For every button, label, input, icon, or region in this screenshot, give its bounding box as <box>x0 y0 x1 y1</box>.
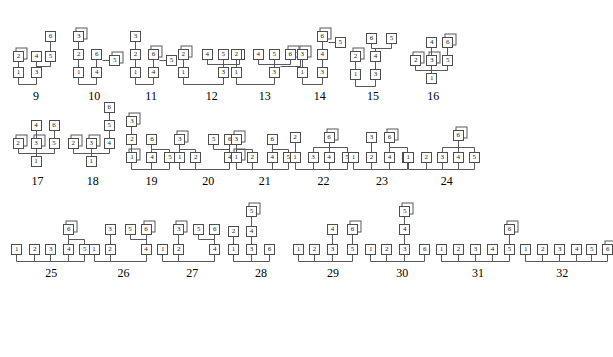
node-box: 4 <box>370 51 381 62</box>
poset-diagram-1: 6524131 <box>5 0 63 2</box>
node-box: 6 <box>91 49 102 60</box>
poset-diagram-11: 32651411 <box>122 29 180 105</box>
node-box: 6 <box>442 37 453 48</box>
node-box: 1 <box>403 152 414 163</box>
node-box: 4 <box>327 224 338 235</box>
node-box: 3 <box>31 67 42 78</box>
node-box: 2 <box>290 132 301 143</box>
node-box: 2 <box>247 152 258 163</box>
node-box: 4 <box>384 152 395 163</box>
poset-diagram-4: 3625144 <box>177 0 233 2</box>
node-box: 6 <box>148 49 159 60</box>
diagram-caption: 18 <box>64 174 122 188</box>
poset-diagram-9: 6245139 <box>7 29 65 105</box>
node-box: 1 <box>290 152 301 163</box>
node-box: 3 <box>327 244 338 255</box>
diagram-caption: 11 <box>122 89 180 103</box>
diagram-caption: 10 <box>65 89 123 103</box>
node-box: 2 <box>173 244 184 255</box>
node-box: 6 <box>267 134 278 145</box>
node-box: 6 <box>504 224 515 235</box>
node-box: 5 <box>399 206 410 217</box>
diagram-caption: 9 <box>7 89 65 103</box>
diagram-canvas: 612345 <box>430 212 526 264</box>
node-box: 5 <box>45 51 56 62</box>
node-box: 4 <box>253 49 264 60</box>
node-box: 1 <box>231 67 242 78</box>
poset-diagram-14: 65341314 <box>291 29 349 105</box>
node-box: 3 <box>366 132 377 143</box>
node-box: 6 <box>146 134 157 145</box>
node-box: 3 <box>218 67 229 78</box>
node-box: 1 <box>293 244 304 255</box>
node-box: 3 <box>73 31 84 42</box>
poset-diagram-5: 2461355 <box>227 0 291 2</box>
node-box: 3 <box>317 67 328 78</box>
node-box: 1 <box>297 67 308 78</box>
node-box: 6 <box>347 224 358 235</box>
node-box: 3 <box>31 138 42 149</box>
diagram-caption: 14 <box>291 89 349 103</box>
poset-diagram-18: 65234118 <box>64 102 122 190</box>
node-box: 3 <box>105 224 116 235</box>
node-box: 1 <box>11 244 22 255</box>
node-box: 2 <box>453 244 464 255</box>
node-box: 1 <box>178 67 189 78</box>
diagram-canvas: 462351 <box>404 29 462 87</box>
node-box: 6 <box>141 224 152 235</box>
node-box: 6 <box>419 244 430 255</box>
node-box: 1 <box>89 244 100 255</box>
node-box: 6 <box>366 33 377 44</box>
diagram-canvas: 462351 <box>9 114 67 172</box>
node-box: 3 <box>297 49 308 60</box>
diagram-edges <box>430 212 526 264</box>
diagram-canvas: 653413 <box>291 29 349 87</box>
node-box: 1 <box>130 67 141 78</box>
poset-diagram-6: 2461356 <box>287 0 351 2</box>
node-box: 3 <box>86 138 97 149</box>
node-box: 6 <box>324 132 335 143</box>
node-box: 3 <box>470 244 481 255</box>
node-box: 4 <box>317 49 328 60</box>
poset-diagram-10: 32651410 <box>65 29 123 105</box>
node-box: 1 <box>86 156 97 167</box>
node-box: 3 <box>45 244 56 255</box>
diagram-canvas: 326514 <box>65 29 123 87</box>
node-box: 1 <box>73 67 84 78</box>
node-box: 4 <box>146 152 157 163</box>
node-box: 3 <box>174 134 185 145</box>
node-box: 2 <box>421 152 432 163</box>
node-box: 1 <box>126 152 137 163</box>
node-box: 5 <box>104 120 115 131</box>
poset-diagram-31: 61234531 <box>430 212 526 282</box>
node-box: 3 <box>126 116 137 127</box>
node-box: 2 <box>537 244 548 255</box>
diagram-canvas: 652341 <box>64 102 122 172</box>
node-box: 5 <box>504 244 515 255</box>
node-box: 5 <box>442 55 453 66</box>
node-box: 4 <box>426 37 437 48</box>
diagram-canvas: 123456 <box>514 212 610 264</box>
node-box: 6 <box>63 224 74 235</box>
node-box: 3 <box>308 152 319 163</box>
node-box: 5 <box>109 55 120 66</box>
diagram-caption: 16 <box>404 89 462 103</box>
node-box: 5 <box>269 49 280 60</box>
diagram-canvas: 652413 <box>344 29 402 87</box>
node-box: 5 <box>49 138 60 149</box>
poset-diagram-17: 46235117 <box>9 114 67 190</box>
node-box: 5 <box>166 55 177 66</box>
node-box: 1 <box>365 244 376 255</box>
node-box: 6 <box>209 224 220 235</box>
diagram-caption: 17 <box>9 174 67 188</box>
poset-diagram-7: 6245137 <box>347 0 411 2</box>
node-box: 2 <box>73 49 84 60</box>
poset-diagram-8: 6245138 <box>406 0 470 2</box>
node-box: 2 <box>178 49 189 60</box>
diagram-canvas: 612345 <box>401 114 493 172</box>
node-box: 2 <box>126 134 137 145</box>
poset-diagram-24: 61234524 <box>401 114 493 190</box>
node-box: 2 <box>13 51 24 62</box>
node-box: 3 <box>130 31 141 42</box>
